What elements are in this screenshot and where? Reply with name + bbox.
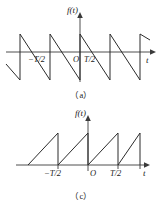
- panel-a-x-axis-label: t: [146, 56, 149, 65]
- panel-a-caption: （a）: [0, 88, 163, 100]
- panel-c-tick-label-pos-half-t: T/2: [110, 169, 121, 178]
- panel-c-x-axis-arrowhead: [144, 162, 150, 168]
- panel-c-caption: （c）: [0, 189, 163, 201]
- panel-c-tick-label-neg-half-t: −T/2: [44, 169, 61, 178]
- panel-c-y-axis-arrowhead: [85, 115, 91, 121]
- panel-a-y-axis-label: f(t): [67, 6, 78, 15]
- panel-a-x-axis-arrowhead: [150, 49, 156, 55]
- panel-a-y-axis-arrowhead: [77, 12, 83, 18]
- panel-a-origin-label: O: [73, 55, 79, 64]
- panel-c-waveform: [28, 133, 140, 165]
- panel-a-tick-label-neg-half-t: −T/2: [28, 55, 45, 64]
- panel-a: f(t) t −T/2 O T/2 （a）: [0, 0, 163, 103]
- figure-root: f(t) t −T/2 O T/2 （a） f(t) t −T/2 O T/2: [0, 0, 163, 206]
- panel-c: f(t) t −T/2 O T/2 （c）: [0, 103, 163, 206]
- panel-c-origin-label: O: [90, 169, 96, 178]
- panel-c-x-axis-label: t: [143, 169, 146, 178]
- panel-a-tick-label-pos-half-t: T/2: [84, 55, 95, 64]
- panel-c-y-axis-label: f(t): [75, 109, 86, 118]
